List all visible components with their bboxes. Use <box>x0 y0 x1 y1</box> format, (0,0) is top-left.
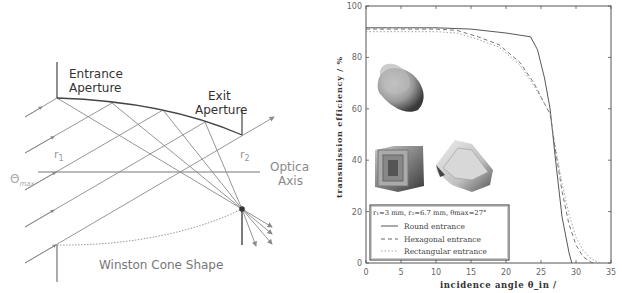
theta-max-label: Θmax <box>10 172 36 188</box>
optical-axis-label-2: Axis <box>278 174 303 188</box>
x-tick-label: 5 <box>398 268 403 277</box>
entrance-label-2: Aperture <box>69 81 122 95</box>
y-tick-label: 80 <box>352 53 362 62</box>
chart-svg: 05101520253035020406080100 <box>310 0 622 293</box>
focal-point <box>239 206 245 212</box>
legend-hexagonal: Hexagonal entrance <box>404 235 481 244</box>
optical-axis-label-1: Optical <box>270 160 310 174</box>
r1-label: r1 <box>54 148 64 163</box>
exit-label-2: Aperture <box>195 103 248 117</box>
legend-title: r₁=3 mm, r₂=6.7 mm, θmax=27° <box>373 209 486 217</box>
x-tick-label: 0 <box>363 268 368 277</box>
entrance-label-1: Entrance <box>69 67 123 81</box>
x-axis-label: incidence angle θ_in / <box>440 280 557 290</box>
y-tick-label: 40 <box>352 156 362 165</box>
legend-rectangular: Rectangular entrance <box>404 247 487 256</box>
x-tick-label: 20 <box>501 268 511 277</box>
x-tick-label: 15 <box>466 268 476 277</box>
cone-profile-dotted <box>57 209 242 245</box>
exit-label-1: Exit <box>208 89 231 103</box>
legend: r₁=3 mm, r₂=6.7 mm, θmax=27° Round entra… <box>370 205 509 260</box>
incident-rays <box>25 98 274 263</box>
transmission-chart: 05101520253035020406080100 <box>310 0 622 293</box>
hexagonal-cone-render <box>436 140 493 192</box>
y-tick-label: 60 <box>352 105 362 114</box>
r2-label: r2 <box>240 148 250 163</box>
y-tick-label: 0 <box>357 259 362 268</box>
winston-cone-caption: Winston Cone Shape <box>99 258 223 272</box>
x-tick-label: 30 <box>571 268 581 277</box>
round-cone-render <box>374 58 423 112</box>
y-tick-label: 100 <box>347 2 362 11</box>
legend-round: Round entrance <box>404 222 465 231</box>
y-axis-label: transmission efficiency / % <box>334 56 344 198</box>
x-tick-label: 10 <box>431 268 441 277</box>
x-tick-label: 35 <box>606 268 616 277</box>
winston-cone-diagram: Entrance Aperture Exit Aperture r1 r2 Θm… <box>0 0 310 293</box>
x-tick-label: 25 <box>536 268 546 277</box>
ray-diagram-svg: Entrance Aperture Exit Aperture r1 r2 Θm… <box>0 0 310 293</box>
y-tick-label: 20 <box>352 208 362 217</box>
rectangular-cone-render <box>375 146 424 192</box>
